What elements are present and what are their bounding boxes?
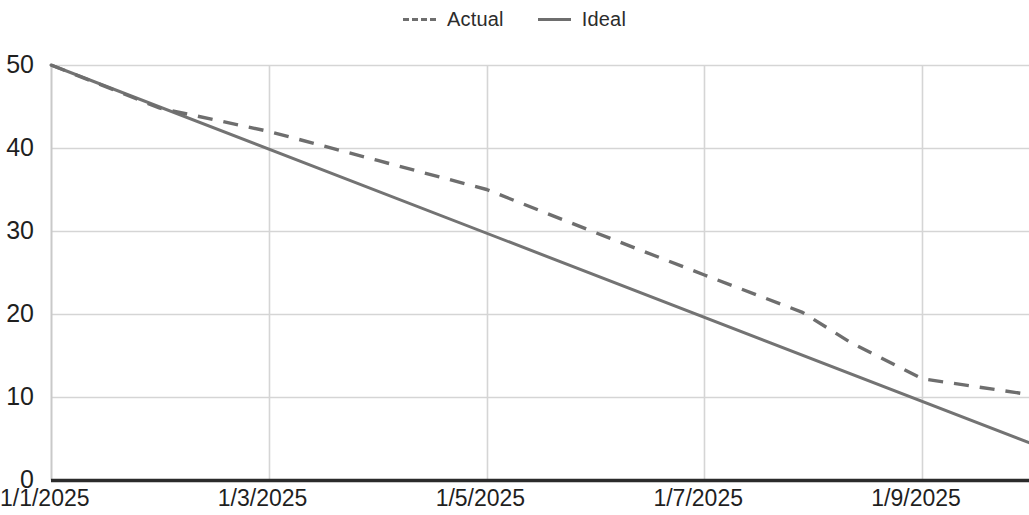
x-axis-tick-label: 1/7/2025 (653, 487, 743, 510)
x-axis-tick-label: 1/5/2025 (436, 487, 526, 510)
x-axis-tick-label: 1/1/2025 (0, 487, 90, 510)
x-axis-tick-label: 1/3/2025 (218, 487, 308, 510)
burndown-chart: Actual Ideal 01020304050 1/1/20251/3/202… (0, 0, 1029, 515)
x-axis-tick-label: 1/9/2025 (871, 487, 961, 510)
x-axis-tick-labels: 1/1/20251/3/20251/5/20251/7/20251/9/2025 (0, 0, 1029, 515)
